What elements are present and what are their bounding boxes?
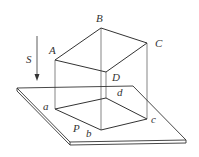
direction-arrow <box>35 36 40 81</box>
label-c-projection: c <box>151 114 156 125</box>
label-c: C <box>155 38 162 49</box>
label-a: A <box>49 45 56 56</box>
label-b-projection: b <box>86 128 92 139</box>
label-plane-p: P <box>73 123 80 134</box>
label-a-projection: a <box>43 101 49 112</box>
plane-p <box>17 86 186 145</box>
label-d-projection: d <box>117 87 123 98</box>
label-b: B <box>96 13 103 24</box>
label-d: D <box>112 72 120 83</box>
label-s: S <box>26 54 32 65</box>
